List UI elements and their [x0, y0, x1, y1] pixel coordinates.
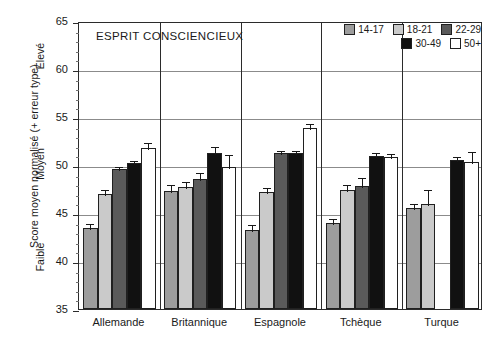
error-bar-stem — [171, 185, 172, 193]
y-tick-minor — [76, 138, 80, 139]
y-tick-major — [73, 263, 79, 264]
y-tick-minor — [76, 177, 80, 178]
x-axis-label-turque: Turque — [401, 316, 482, 328]
y-tick-major — [73, 215, 79, 216]
legend-item-22-29[interactable]: 22-29 — [441, 24, 481, 35]
y-tick-minor — [76, 196, 80, 197]
y-tick-label: 65 — [46, 16, 68, 27]
bar-britannique-50+[interactable] — [222, 167, 237, 309]
y-tick-minor — [76, 234, 80, 235]
y-tick-label: 35 — [46, 304, 68, 315]
y-tick-label: 40 — [46, 256, 68, 267]
bar-britannique-30-49[interactable] — [207, 153, 222, 309]
gridline — [79, 71, 481, 72]
bar-allemande-22-29[interactable] — [112, 169, 127, 309]
bar-turque-50+[interactable] — [464, 162, 479, 309]
error-bar-cap — [101, 190, 109, 191]
bar-turque-14-17[interactable] — [406, 208, 421, 309]
legend-item-14-17[interactable]: 14-17 — [344, 24, 384, 35]
bar-tchèque-30-49[interactable] — [369, 156, 384, 309]
error-bar-cap — [410, 204, 418, 205]
error-bar-cap — [263, 188, 271, 189]
y-tick-major — [73, 23, 79, 24]
error-bar-stem — [252, 225, 253, 232]
error-bar-cap — [248, 225, 256, 226]
bar-espagnole-14-17[interactable] — [245, 230, 260, 309]
x-axis-label-allemande: Allemande — [78, 316, 159, 328]
error-bar-cap — [372, 153, 380, 154]
bar-britannique-18-21[interactable] — [178, 187, 193, 309]
error-bar-cap — [424, 190, 432, 191]
bar-turque-18-21[interactable] — [421, 204, 436, 309]
legend-label-30-49: 30-49 — [415, 38, 441, 49]
y-tick-major — [73, 167, 79, 168]
legend-item-18-21[interactable]: 18-21 — [393, 24, 433, 35]
chart-container: Score moyen normalisé (+ erreur type) Él… — [0, 0, 497, 350]
y-tick-minor — [76, 129, 80, 130]
chart-title: ESPRIT CONSCIENCIEUX — [96, 30, 243, 42]
error-bar-stem — [229, 155, 230, 169]
error-bar-cap — [182, 182, 190, 183]
bar-espagnole-18-21[interactable] — [259, 192, 274, 309]
error-bar-cap — [387, 154, 395, 155]
error-bar-cap — [144, 143, 152, 144]
bar-britannique-22-29[interactable] — [193, 179, 208, 309]
error-bar-cap — [225, 155, 233, 156]
legend-swatch-icon-18-21 — [393, 24, 404, 35]
error-bar-stem — [472, 152, 473, 164]
bar-tchèque-50+[interactable] — [384, 157, 399, 309]
x-axis-label-britannique: Britannique — [159, 316, 240, 328]
legend-item-50plus[interactable]: 50+ — [450, 38, 481, 49]
bar-allemande-14-17[interactable] — [83, 228, 98, 309]
y-tick-minor — [76, 282, 80, 283]
legend-row-2: 30-49 50+ — [305, 38, 481, 49]
bar-tchèque-22-29[interactable] — [355, 186, 370, 309]
y-tick-minor — [76, 61, 80, 62]
group-separator — [241, 23, 242, 309]
x-axis-label-espagnole: Espagnole — [240, 316, 321, 328]
bar-espagnole-22-29[interactable] — [274, 153, 289, 309]
y-tick-minor — [76, 52, 80, 53]
bar-tchèque-14-17[interactable] — [326, 223, 341, 309]
y-tick-label: 60 — [46, 64, 68, 75]
y-tick-minor — [76, 225, 80, 226]
error-bar-cap — [292, 151, 300, 152]
legend-swatch-icon-30-49 — [401, 38, 412, 49]
y-tick-label: 45 — [46, 208, 68, 219]
y-tick-minor — [76, 100, 80, 101]
y-tick-minor — [76, 292, 80, 293]
error-bar-cap — [115, 167, 123, 168]
error-bar-cap — [130, 161, 138, 162]
legend-label-18-21: 18-21 — [407, 24, 433, 35]
error-bar-cap — [343, 185, 351, 186]
bar-turque-30-49[interactable] — [450, 160, 465, 309]
bar-espagnole-50+[interactable] — [303, 128, 318, 309]
legend-swatch-icon-14-17 — [344, 24, 355, 35]
group-separator — [402, 23, 403, 309]
error-bar-stem — [148, 143, 149, 150]
y-tick-minor — [76, 205, 80, 206]
y-tick-label: 50 — [46, 160, 68, 171]
error-bar-stem — [347, 185, 348, 192]
legend-item-30-49[interactable]: 30-49 — [401, 38, 441, 49]
bar-britannique-14-17[interactable] — [164, 191, 179, 309]
y-band-label-faible: Faible — [34, 229, 46, 285]
bar-allemande-50+[interactable] — [141, 148, 156, 309]
error-bar-cap — [196, 173, 204, 174]
legend-swatch-icon-50plus — [450, 38, 461, 49]
bar-allemande-18-21[interactable] — [98, 194, 113, 309]
y-tick-minor — [76, 273, 80, 274]
plot-area — [78, 22, 482, 310]
gridline — [79, 119, 481, 120]
error-bar-cap — [306, 124, 314, 125]
y-tick-minor — [76, 42, 80, 43]
y-tick-minor — [76, 90, 80, 91]
y-tick-minor — [76, 186, 80, 187]
y-tick-minor — [76, 81, 80, 82]
error-bar-cap — [468, 152, 476, 153]
y-tick-minor — [76, 109, 80, 110]
bar-allemande-30-49[interactable] — [127, 163, 142, 309]
bar-espagnole-30-49[interactable] — [288, 153, 303, 309]
bar-tchèque-18-21[interactable] — [340, 190, 355, 309]
y-tick-minor — [76, 244, 80, 245]
